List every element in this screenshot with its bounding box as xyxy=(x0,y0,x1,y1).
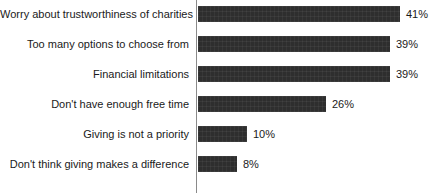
value-label: 39% xyxy=(396,36,418,52)
value-label: 8% xyxy=(243,156,259,172)
bar xyxy=(198,6,400,22)
chart-row: Too many options to choose from 39% xyxy=(0,36,429,66)
chart-row: Don't have enough free time 26% xyxy=(0,96,429,126)
chart-row: Don't think giving makes a difference 8% xyxy=(0,156,429,186)
category-label: Giving is not a priority xyxy=(0,126,189,142)
bar-chart: Worry about trustworthiness of charities… xyxy=(0,0,429,193)
chart-row: Giving is not a priority 10% xyxy=(0,126,429,156)
value-label: 26% xyxy=(332,96,354,112)
value-label: 39% xyxy=(396,66,418,82)
bar xyxy=(198,66,390,82)
bar xyxy=(198,156,237,172)
category-label: Worry about trustworthiness of charities xyxy=(0,6,189,22)
chart-row: Worry about trustworthiness of charities… xyxy=(0,6,429,36)
category-label: Financial limitations xyxy=(0,66,189,82)
value-label: 10% xyxy=(253,126,275,142)
value-label: 41% xyxy=(406,6,428,22)
bar xyxy=(198,96,326,112)
category-label: Don't think giving makes a difference xyxy=(0,156,189,172)
bar xyxy=(198,36,390,52)
category-label: Don't have enough free time xyxy=(0,96,189,112)
chart-row: Financial limitations 39% xyxy=(0,66,429,96)
bar xyxy=(198,126,247,142)
category-label: Too many options to choose from xyxy=(0,36,189,52)
